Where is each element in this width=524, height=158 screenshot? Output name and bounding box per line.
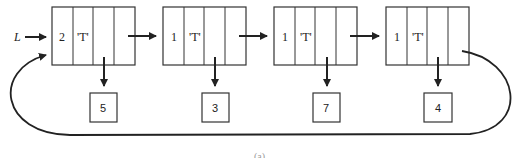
- node-tag: 'T': [412, 30, 424, 44]
- value-text: 7: [323, 102, 329, 114]
- node-tag: 'T': [77, 30, 89, 44]
- list-node-2: 1 'T': [163, 7, 246, 65]
- linked-list-diagram: L 2 'T' 5 1 'T' 3 1 'T': [0, 0, 524, 158]
- value-text: 5: [100, 102, 106, 114]
- list-node-3: 1 'T': [274, 7, 357, 65]
- list-node-4: 1 'T': [386, 7, 469, 65]
- value-text: 4: [435, 102, 441, 114]
- value-text: 3: [212, 102, 218, 114]
- value-box-2: 3: [202, 93, 229, 122]
- node-count: 2: [59, 30, 65, 44]
- node-tag: 'T': [189, 30, 201, 44]
- value-box-3: 7: [313, 93, 340, 122]
- node-count: 1: [171, 30, 177, 44]
- list-node-1: 2 'T': [52, 7, 135, 65]
- node-tag: 'T': [300, 30, 312, 44]
- value-box-1: 5: [90, 93, 117, 122]
- value-box-4: 4: [424, 93, 452, 122]
- head-label: L: [13, 30, 21, 44]
- figure-caption: (a): [254, 151, 265, 158]
- node-count: 1: [394, 30, 400, 44]
- node-count: 1: [282, 30, 288, 44]
